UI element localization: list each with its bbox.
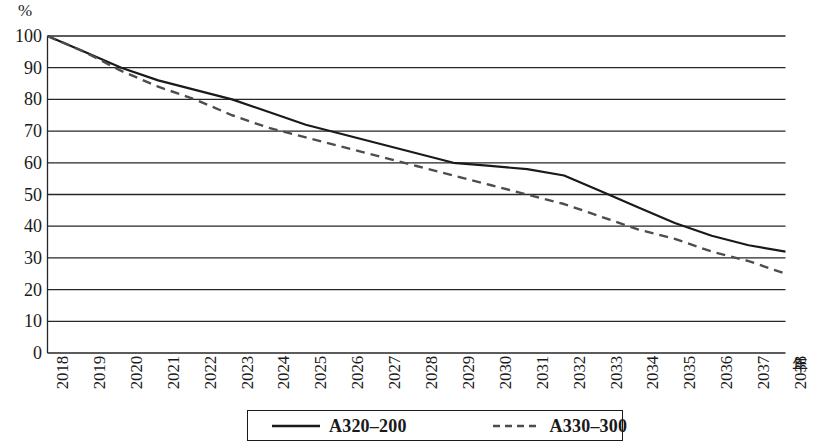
legend-swatch-dashed-icon — [493, 420, 541, 432]
series-line-a330-300 — [48, 36, 786, 274]
legend-swatch-solid-icon — [272, 420, 320, 432]
legend-label-a320-200: A320–200 — [329, 417, 407, 435]
legend-label-a330-300: A330–300 — [550, 417, 628, 435]
gridlines — [48, 36, 786, 353]
line-chart-plot — [0, 0, 818, 443]
chart-page: % 年 0102030405060708090100 2018201920202… — [0, 0, 818, 443]
series-lines — [48, 36, 786, 274]
legend-item-a320-200: A320–200 — [272, 411, 407, 440]
legend-item-a330-300: A330–300 — [493, 411, 628, 440]
chart-legend: A320–200 A330–300 — [247, 410, 623, 441]
